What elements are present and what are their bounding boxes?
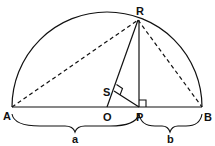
semicircle-diagram: R S A O P B a b <box>0 0 215 146</box>
brace-a <box>12 114 139 132</box>
radius-OR <box>107 20 138 107</box>
brace-b <box>139 114 202 132</box>
label-S: S <box>103 86 110 98</box>
right-angle-mark-P <box>139 100 146 107</box>
label-P: P <box>136 111 143 123</box>
label-B: B <box>204 111 212 123</box>
label-a: a <box>72 133 79 145</box>
chord-RB <box>138 20 202 107</box>
segment-PS <box>114 91 139 107</box>
label-O: O <box>103 111 112 123</box>
label-R: R <box>136 5 144 17</box>
label-b: b <box>167 133 174 145</box>
label-A: A <box>3 110 11 122</box>
